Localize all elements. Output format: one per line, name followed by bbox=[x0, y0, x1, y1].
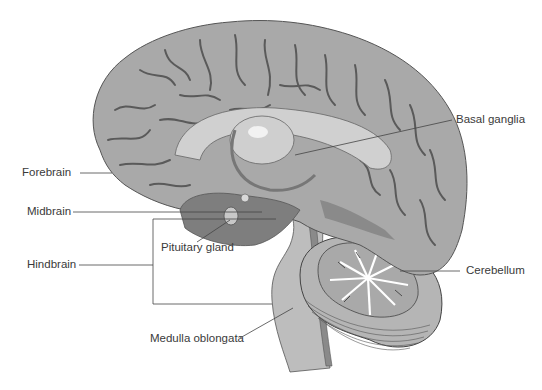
label-basal-ganglia: Basal ganglia bbox=[456, 113, 525, 126]
brain-diagram: Forebrain Midbrain Hindbrain Pituitary g… bbox=[0, 0, 542, 390]
label-cerebellum: Cerebellum bbox=[466, 264, 525, 277]
label-pituitary-gland: Pituitary gland bbox=[161, 241, 234, 254]
cerebrum-shape bbox=[93, 21, 467, 275]
label-forebrain: Forebrain bbox=[22, 166, 71, 179]
label-hindbrain: Hindbrain bbox=[27, 258, 76, 271]
label-midbrain: Midbrain bbox=[27, 205, 71, 218]
label-medulla-oblongata: Medulla oblongata bbox=[150, 332, 244, 345]
brain-illustration bbox=[0, 0, 542, 390]
thalamus-shape bbox=[230, 116, 294, 164]
